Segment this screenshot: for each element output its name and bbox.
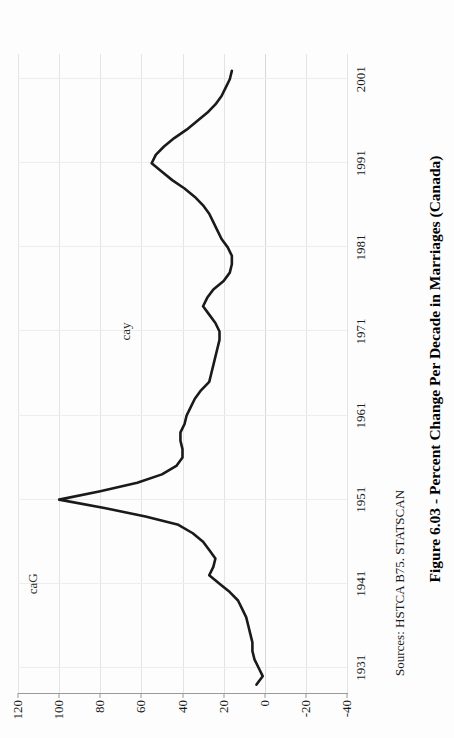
x-gridline bbox=[18, 162, 347, 163]
x-gridline bbox=[18, 330, 347, 331]
y-gridline bbox=[265, 54, 266, 693]
x-tick-label: 1961 bbox=[353, 403, 369, 429]
x-tick-label: 2001 bbox=[353, 66, 369, 92]
series-line bbox=[18, 393, 168, 693]
x-tick-label: 1981 bbox=[353, 234, 369, 260]
chart-annotation: caG bbox=[25, 573, 41, 594]
y-tick-mark bbox=[347, 693, 348, 698]
y-gridline bbox=[347, 54, 348, 693]
y-tick-mark bbox=[18, 693, 19, 698]
y-tick-mark bbox=[305, 693, 306, 698]
y-tick-mark bbox=[141, 693, 142, 698]
y-tick-label: 0 bbox=[257, 700, 273, 707]
y-tick-label: -20 bbox=[298, 700, 314, 717]
x-tick-label: 1991 bbox=[353, 150, 369, 176]
figure-page: 120100806040200-20-40 193119411951196119… bbox=[0, 0, 454, 738]
x-tick-label: 1941 bbox=[353, 571, 369, 597]
source-note: Sources: HSTCA B75. STATSCAN bbox=[392, 490, 408, 676]
y-tick-label: 100 bbox=[51, 700, 67, 720]
y-tick-mark bbox=[264, 693, 265, 698]
y-tick-label: 60 bbox=[133, 700, 149, 713]
chart-annotation: cay bbox=[118, 322, 134, 340]
y-gridline bbox=[306, 54, 307, 693]
figure-caption: Figure 6.03 - Percent Change Per Decade … bbox=[426, 0, 444, 738]
y-tick-label: -40 bbox=[339, 700, 355, 717]
y-tick-mark bbox=[100, 693, 101, 698]
x-gridline bbox=[18, 78, 347, 79]
y-tick-label: 40 bbox=[175, 700, 191, 713]
chart-plot-area: 120100806040200-20-40 193119411951196119… bbox=[18, 54, 348, 694]
y-gridline bbox=[183, 54, 184, 693]
x-tick-label: 1971 bbox=[353, 318, 369, 344]
y-tick-mark bbox=[223, 693, 224, 698]
x-tick-label: 1931 bbox=[353, 655, 369, 681]
y-tick-mark bbox=[59, 693, 60, 698]
y-gridline bbox=[224, 54, 225, 693]
y-tick-label: 120 bbox=[10, 700, 26, 720]
x-tick-label: 1951 bbox=[353, 487, 369, 513]
x-gridline bbox=[18, 246, 347, 247]
figure-canvas: 120100806040200-20-40 193119411951196119… bbox=[0, 0, 454, 738]
y-tick-label: 20 bbox=[216, 700, 232, 713]
y-tick-mark bbox=[182, 693, 183, 698]
y-tick-label: 80 bbox=[92, 700, 108, 713]
